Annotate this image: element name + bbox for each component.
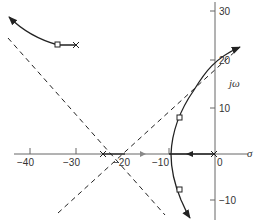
root-locus-plot: −40 −30 −20 −10 0 30 20 10 −10 jω σ xyxy=(0,0,259,223)
real-axis-ticks xyxy=(30,148,169,154)
tick-label-real: 0 xyxy=(217,157,223,168)
locus-branch xyxy=(9,17,76,45)
gain-marker-square xyxy=(177,115,182,120)
tick-label-real: −10 xyxy=(152,157,169,168)
locus-direction-arrow xyxy=(140,151,146,157)
real-axis-label: σ xyxy=(247,147,253,159)
locus-direction-arrow xyxy=(186,151,193,157)
imag-axis-ticks xyxy=(210,11,215,200)
tick-label-imag: −10 xyxy=(219,195,236,206)
asymptote-line xyxy=(58,47,240,213)
gain-marker-square xyxy=(177,187,182,192)
tick-label-real: −40 xyxy=(17,157,34,168)
asymptote-line xyxy=(8,38,165,215)
locus-branch-lower xyxy=(171,154,190,218)
imag-axis-label: jω xyxy=(227,77,240,89)
tick-label-imag: 10 xyxy=(219,103,231,114)
gain-marker-square xyxy=(55,42,60,47)
tick-label-real: −30 xyxy=(63,157,80,168)
tick-label-imag: 30 xyxy=(219,6,231,17)
